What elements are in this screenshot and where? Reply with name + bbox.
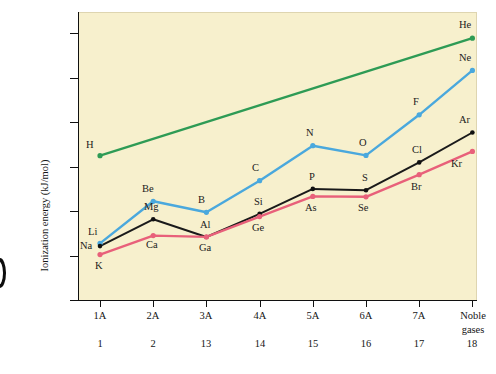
- point-label-As: As: [305, 202, 317, 213]
- x-label-6A: 6A: [346, 310, 386, 321]
- x-number-17: 17: [399, 338, 439, 349]
- point-label-Al: Al: [200, 219, 211, 230]
- y-axis-title-wrap: Ionization energy (kJ/mol): [16, 60, 34, 260]
- y-tick-2400: [70, 33, 78, 34]
- point-label-N: N: [306, 127, 314, 138]
- data-point-Kr: [470, 149, 475, 154]
- point-label-Na: Na: [80, 240, 92, 251]
- x-number-16: 16: [346, 338, 386, 349]
- y-axis-line: [78, 12, 79, 301]
- point-label-C: C: [252, 162, 259, 173]
- y-axis-title: Ionization energy (kJ/mol): [39, 126, 50, 306]
- point-label-Mg: Mg: [144, 201, 159, 212]
- point-label-Ga: Ga: [199, 242, 211, 253]
- point-label-He: He: [459, 19, 471, 30]
- data-point-Ga: [204, 234, 209, 239]
- plot-lines-svg: [78, 13, 476, 301]
- data-point-Mg: [151, 217, 156, 222]
- data-point-Na: [98, 244, 103, 249]
- point-label-Kr: Kr: [451, 158, 462, 169]
- point-label-Ca: Ca: [146, 239, 158, 250]
- x-number-14: 14: [240, 338, 280, 349]
- x-tick-1A: [100, 300, 101, 307]
- x-label-7A: 7A: [399, 310, 439, 321]
- point-label-O: O: [359, 137, 367, 148]
- data-point-H: [97, 153, 102, 158]
- x-tick-7A: [419, 300, 420, 307]
- point-label-Cl: Cl: [412, 144, 422, 155]
- x-tick-noble: [472, 300, 473, 307]
- point-label-Ar: Ar: [459, 114, 470, 125]
- point-label-B: B: [198, 194, 205, 205]
- data-point-Ar: [470, 130, 475, 135]
- data-point-B: [204, 210, 209, 215]
- ionization-energy-chart-figure: H He Li Be B C N O F Ne Na Mg Al Si P S …: [0, 0, 496, 374]
- x-tick-2A: [153, 300, 154, 307]
- x-tick-3A: [206, 300, 207, 307]
- y-tick-2000: [70, 78, 78, 79]
- x-label-2A: 2A: [133, 310, 173, 321]
- data-point-Cl: [417, 160, 422, 165]
- x-label-noble-line2: gases: [448, 324, 496, 335]
- point-label-F: F: [413, 96, 419, 107]
- x-tick-4A: [260, 300, 261, 307]
- point-label-S: S: [362, 172, 368, 183]
- y-tick-1200: [70, 167, 78, 168]
- x-axis-line: [78, 300, 477, 301]
- data-point-He: [470, 36, 475, 41]
- point-label-K: K: [95, 260, 103, 271]
- x-label-3A: 3A: [186, 310, 226, 321]
- point-label-H: H: [86, 139, 94, 150]
- y-tick-400: [70, 256, 78, 257]
- data-point-N: [310, 143, 315, 148]
- y-tick-0: [70, 300, 78, 301]
- data-point-F: [417, 112, 422, 117]
- y-tick-1600: [70, 122, 78, 123]
- data-point-Ca: [151, 233, 156, 238]
- data-point-C: [257, 178, 262, 183]
- data-point-O: [363, 153, 368, 158]
- point-label-Br: Br: [411, 181, 422, 192]
- point-label-Si: Si: [254, 196, 263, 207]
- data-point-Se: [363, 194, 368, 199]
- data-point-Ne: [470, 68, 475, 73]
- x-label-4A: 4A: [240, 310, 280, 321]
- data-point-K: [97, 252, 102, 257]
- point-label-Ne: Ne: [459, 52, 471, 63]
- x-label-5A: 5A: [293, 310, 333, 321]
- x-label-1A: 1A: [80, 310, 120, 321]
- x-label-noble-line1: Noble: [448, 310, 496, 321]
- x-number-18: 18: [452, 338, 492, 349]
- point-label-Be: Be: [142, 183, 154, 194]
- data-point-As: [310, 194, 315, 199]
- x-number-1: 1: [80, 338, 120, 349]
- y-tick-800: [70, 211, 78, 212]
- point-label-Ge: Ge: [252, 222, 264, 233]
- x-number-2: 2: [133, 338, 173, 349]
- x-number-15: 15: [293, 338, 333, 349]
- x-tick-6A: [366, 300, 367, 307]
- x-number-13: 13: [186, 338, 226, 349]
- point-label-Se: Se: [358, 202, 369, 213]
- data-point-S: [364, 188, 369, 193]
- data-point-Ge: [257, 214, 262, 219]
- point-label-Li: Li: [88, 226, 97, 237]
- data-point-Br: [417, 172, 422, 177]
- point-label-P: P: [309, 171, 315, 182]
- plot-area: H He Li Be B C N O F Ne Na Mg Al Si P S …: [78, 12, 477, 301]
- x-tick-5A: [313, 300, 314, 307]
- data-point-P: [311, 187, 316, 192]
